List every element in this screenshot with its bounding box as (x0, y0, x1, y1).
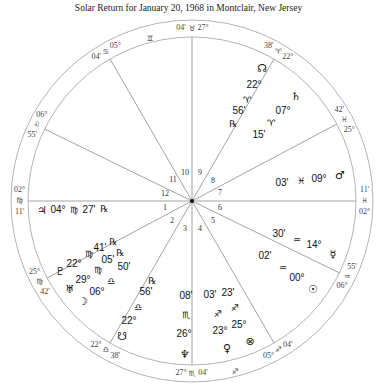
cusp-line-house-6 (192, 201, 339, 273)
cusp-degree: 22° (91, 340, 102, 349)
cusp-sign-icon: ♉ (189, 24, 196, 33)
house-number: 2 (170, 216, 174, 225)
house-number: 1 (163, 203, 167, 212)
cusp-minutes: 11' (15, 207, 25, 216)
part-of-fortune-icon: ⊗ (245, 335, 254, 348)
cusp-minutes: 04' (91, 52, 101, 61)
retrograde-icon: ℞ (116, 248, 124, 258)
planet-text: 56' (232, 105, 245, 116)
house-number: 4 (198, 224, 202, 233)
planet-text: 26° (176, 328, 191, 339)
astrology-wheel: 02°♍11'25°♍42'22°♎38'27°♏04'05°♐04'06°♒5… (0, 0, 377, 385)
planet-text: 56' (139, 286, 152, 297)
intercepted-sign-icon: ♐ (232, 367, 239, 376)
sign-icon: ♍ (94, 265, 102, 275)
house-number: 7 (218, 188, 222, 197)
planet-sun: ☉00°♒02' (258, 250, 317, 296)
planet-placements: ☊22°♈56'℞♄07°♈15'♂09°♓03'☿14°♒30'☉00°♒02… (37, 62, 345, 361)
retrograde-icon: ℞ (109, 237, 117, 247)
planet-text: 00° (289, 272, 304, 283)
planet-neptune: ♆26°♏08' (176, 290, 192, 361)
neptune-icon: ♆ (180, 348, 190, 361)
house-number: 10 (181, 168, 189, 177)
planet-text: 23° (212, 325, 227, 336)
planet-text: 50' (117, 261, 130, 272)
sign-icon: ♏ (182, 310, 190, 320)
planet-text: 41' (93, 242, 106, 253)
cusp-minutes: 11' (360, 185, 370, 194)
cusp-sign-icon: ♒ (344, 272, 351, 281)
house-number: 11 (169, 175, 177, 184)
cusp-degree: 06° (36, 110, 47, 119)
planet-text: 08' (179, 290, 192, 301)
sign-icon: ♍ (85, 249, 93, 259)
retrograde-icon: ℞ (148, 276, 156, 286)
cusp-minutes: 38' (264, 41, 274, 50)
cusp-label-house-8: 25°♓42' (334, 105, 355, 133)
planet-text: 23' (221, 287, 234, 298)
planet-mars: ♂09°♓03' (275, 169, 344, 188)
sign-icon: ♓ (297, 176, 305, 186)
cusp-label-house-11: 05°♋04' (91, 41, 120, 61)
planet-text: 29° (75, 274, 90, 285)
cusp-degree: 25° (344, 125, 355, 134)
cusp-sign-icon: ♌ (34, 120, 41, 129)
cusp-sign-icon: ♓ (341, 115, 348, 124)
planet-text: 22° (246, 79, 261, 90)
planet-venus: ♀23°♐03' (203, 289, 231, 355)
house-number: 6 (218, 203, 222, 212)
cusp-sign-icon: ♎ (102, 345, 109, 354)
cusp-degree: 05° (263, 351, 274, 360)
moon-icon: ☽ (78, 295, 88, 308)
cusp-minutes: 38' (111, 351, 121, 360)
cusp-sign-icon: ♓ (361, 196, 368, 205)
cusp-sign-icon: ♍ (16, 196, 23, 205)
mercury-icon: ☿ (330, 248, 337, 261)
cusp-label-house-3: 22°♎38' (91, 340, 121, 360)
cusp-minutes: 55' (27, 130, 37, 139)
center-point (190, 199, 194, 203)
cusp-minutes: 42' (334, 105, 344, 114)
cusp-degree: 22° (282, 52, 293, 61)
cusp-degree: 02° (14, 185, 25, 194)
saturn-icon: ♄ (291, 90, 301, 103)
planet-text: 25° (231, 319, 246, 330)
cusp-label-house-5: 05°♐04' (263, 340, 293, 360)
sign-icon: ♐ (214, 309, 222, 319)
cusp-minutes: 55' (347, 262, 357, 271)
sign-icon: ♒ (279, 263, 287, 273)
south-node-icon: ☋ (117, 330, 127, 343)
cusp-label-house-10: 27°♉04' (176, 23, 208, 32)
sign-icon: ♎ (134, 302, 142, 312)
cusp-label-house-6: 06°♒55' (337, 262, 358, 291)
sign-icon: ♍ (70, 205, 78, 215)
planet-text: 05' (101, 254, 114, 265)
planet-north-node: ☊22°♈56'℞ (229, 62, 267, 129)
house-number: 9 (198, 168, 202, 177)
planet-south-node: ☋22°♎56'℞ (117, 276, 156, 344)
cusp-label-house-9: 22°♈38' (264, 41, 293, 61)
cusp-degree: 06° (337, 281, 348, 290)
cusp-sign-icon: ♋ (102, 47, 109, 56)
cusp-label-house-12: 06°♌55' (27, 110, 47, 139)
cusp-degree: 27° (175, 368, 186, 377)
house-number: 5 (211, 216, 215, 225)
cusp-label-house-7: 02°♓11' (359, 185, 370, 216)
sign-icon: ♐ (231, 303, 239, 313)
cusp-minutes: 04' (283, 340, 293, 349)
jupiter-icon: ♃ (37, 204, 47, 217)
planet-text: 03' (203, 289, 216, 300)
planet-text: 02' (258, 250, 271, 261)
planet-jupiter: ♃04°♍27'℞ (37, 204, 108, 218)
sign-icon: ♒ (293, 235, 301, 245)
mars-icon: ♂ (335, 169, 345, 182)
planet-text: 03' (275, 177, 288, 188)
cusp-sign-icon: ♏ (189, 369, 196, 378)
retrograde-icon: ℞ (229, 119, 237, 129)
cusp-degree: 25° (29, 267, 40, 276)
house-number: 8 (211, 176, 215, 185)
planet-text: 06° (89, 286, 104, 297)
cusp-minutes: 04' (176, 23, 186, 32)
intercepted-sign-icon: ♊ (147, 34, 154, 43)
cusp-minutes: 42' (40, 287, 50, 296)
